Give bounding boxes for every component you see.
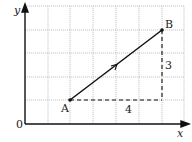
y-axis-label: y xyxy=(14,5,20,16)
x-axis-label: x xyxy=(177,128,183,139)
point-b-label: B xyxy=(165,19,173,30)
run-label: 4 xyxy=(125,104,132,115)
grid xyxy=(25,6,184,124)
vector-diagram xyxy=(0,0,192,142)
point-b xyxy=(160,28,164,32)
rise-label: 3 xyxy=(165,60,172,71)
point-a-label: A xyxy=(61,103,69,114)
axes xyxy=(22,4,189,127)
origin-label: 0 xyxy=(16,119,23,130)
